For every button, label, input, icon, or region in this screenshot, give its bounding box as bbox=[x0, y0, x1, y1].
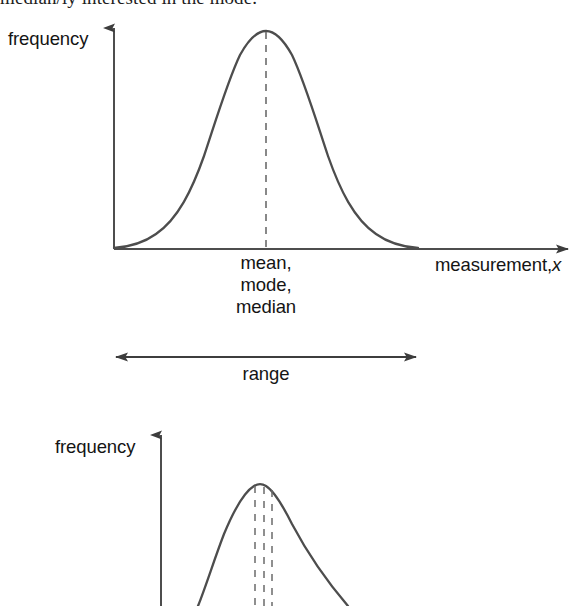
x-axis-label-chart1: measurement,x bbox=[435, 254, 561, 276]
range-label: range bbox=[196, 363, 336, 385]
mode-label: mode, bbox=[196, 274, 336, 296]
truncated-body-text: median/ly interested in the mode. bbox=[0, 0, 580, 13]
mean-mode-median-label: mean, mode, median bbox=[196, 252, 336, 318]
chart-symmetric-distribution bbox=[114, 28, 568, 249]
y-axis-label-chart2: frequency bbox=[55, 436, 135, 458]
mean-label: mean, bbox=[196, 252, 336, 274]
chart-skewed-distribution bbox=[161, 435, 348, 606]
statistics-distribution-figure: median/ly interested in the mode. bbox=[0, 0, 580, 606]
median-label: median bbox=[196, 296, 336, 318]
x-axis-label-text: measurement, bbox=[435, 254, 552, 275]
x-axis-variable: x bbox=[552, 254, 561, 275]
y-axis-label-chart1: frequency bbox=[8, 28, 88, 50]
skewed-curve-chart2 bbox=[198, 484, 348, 606]
